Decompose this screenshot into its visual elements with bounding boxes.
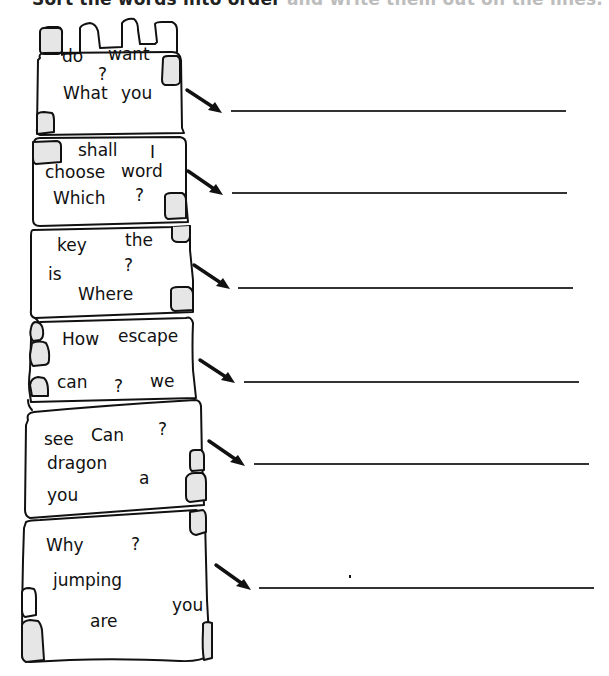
- word: ?: [98, 66, 107, 83]
- word: a: [139, 470, 149, 487]
- word: What: [63, 85, 108, 102]
- arrow-icon: [209, 441, 245, 466]
- answer-line-6[interactable]: [259, 587, 594, 589]
- word: ?: [114, 378, 123, 395]
- stone-block-1: [37, 52, 184, 135]
- word: Which: [53, 190, 105, 207]
- word: are: [90, 613, 118, 630]
- word: Why: [46, 537, 84, 554]
- arrow-icon: [187, 90, 222, 113]
- arrow-icon: [194, 265, 230, 289]
- word: want: [108, 46, 150, 63]
- answer-line-3[interactable]: [238, 287, 573, 289]
- arrow-icon: [200, 360, 235, 383]
- word: word: [121, 163, 163, 180]
- word: How: [62, 331, 99, 348]
- word: shall: [78, 142, 118, 159]
- word: key: [57, 237, 87, 254]
- word: ?: [131, 536, 140, 553]
- stray-mark: [349, 575, 351, 578]
- word: do: [62, 48, 83, 65]
- word: we: [150, 373, 174, 390]
- word: the: [125, 232, 153, 249]
- answer-line-1[interactable]: [231, 110, 566, 112]
- word: choose: [45, 164, 105, 181]
- word: Can: [91, 427, 124, 444]
- word: ?: [124, 257, 133, 274]
- word: I: [150, 144, 155, 161]
- word: Where: [78, 286, 133, 303]
- word: you: [121, 85, 152, 102]
- word: see: [44, 431, 74, 448]
- word: dragon: [47, 455, 107, 472]
- word: can: [57, 374, 88, 391]
- arrow-icon: [216, 565, 251, 590]
- word: escape: [118, 328, 178, 345]
- arrow-icon: [188, 171, 223, 195]
- word: ?: [158, 421, 167, 438]
- word: is: [48, 266, 62, 283]
- answer-line-5[interactable]: [254, 463, 589, 465]
- word: ?: [135, 187, 144, 204]
- word: you: [47, 487, 78, 504]
- answer-line-4[interactable]: [244, 381, 579, 383]
- word: you: [172, 597, 203, 614]
- answer-line-2[interactable]: [232, 192, 567, 194]
- word: jumping: [53, 572, 122, 589]
